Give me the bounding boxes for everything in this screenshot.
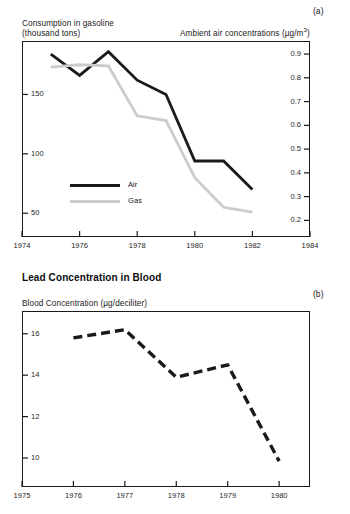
x-tick-label: 1975 <box>6 491 38 500</box>
y-tick-label: 16 <box>31 329 39 338</box>
lead-figure: (a) Consumption in gasoline (thousand to… <box>0 0 350 514</box>
y-tick-label: 10 <box>31 453 39 462</box>
y-tick-label: 12 <box>31 412 39 421</box>
panel-b-letter: (b) <box>313 289 324 299</box>
y2-tick-label: 0.8 <box>282 73 301 82</box>
panel-a-bottom-ticks <box>22 231 310 237</box>
y2-tick-label: 0.4 <box>282 168 301 177</box>
legend-swatch-gas <box>70 200 120 203</box>
panel-a-left-axis-title-line2: (thousand tons) <box>22 29 80 39</box>
x-tick-label: 1976 <box>64 241 96 250</box>
y2-tick-label: 0.2 <box>282 215 301 224</box>
series-line-air <box>51 52 253 190</box>
panel-b-title: Lead Concentration in Blood <box>22 272 161 283</box>
panel-a-series-lines <box>51 52 253 212</box>
panel-b-bottom-ticks <box>22 481 279 487</box>
x-tick-label: 1978 <box>121 241 153 250</box>
y-tick-label: 14 <box>31 370 39 379</box>
panel-a-plot-area <box>22 41 310 237</box>
panel-b-left-ticks <box>22 334 28 458</box>
panel-a-left-axis-title-line1: Consumption in gasoline <box>22 19 114 29</box>
y2-tick-label: 0.5 <box>282 144 301 153</box>
y-tick-label: 100 <box>31 149 44 158</box>
y-tick-label: 50 <box>31 208 39 217</box>
x-tick-label: 1974 <box>6 241 38 250</box>
y2-tick-label: 0.9 <box>282 49 301 58</box>
legend-label-gas: Gas <box>128 196 142 205</box>
panel-a-right-axis-title-suffix: ) <box>307 29 310 38</box>
x-tick-label: 1976 <box>57 491 89 500</box>
x-tick-label: 1980 <box>263 491 295 500</box>
x-tick-label: 1980 <box>179 241 211 250</box>
y-tick-label: 150 <box>31 89 44 98</box>
x-tick-label: 1979 <box>212 491 244 500</box>
legend-swatch-air <box>70 184 120 187</box>
panel-a-left-ticks <box>22 94 28 213</box>
series-line-blood-lead-concentration <box>73 330 279 461</box>
panel-a-letter: (a) <box>313 6 324 16</box>
y2-tick-label: 0.3 <box>282 192 301 201</box>
y2-tick-label: 0.6 <box>282 120 301 129</box>
panel-b-plot-area <box>22 311 310 487</box>
panel-a-right-axis-title: Ambient air concentrations (µg/m3) <box>180 29 310 39</box>
panel-b-series-lines <box>73 330 279 461</box>
panel-a-right-axis-title-prefix: Ambient air concentrations (µg/m <box>180 29 304 38</box>
x-tick-label: 1978 <box>160 491 192 500</box>
y2-tick-label: 0.7 <box>282 97 301 106</box>
panel-a-right-ticks <box>304 54 310 220</box>
x-tick-label: 1984 <box>294 241 326 250</box>
panel-b-axis-title: Blood Concentration (µg/deciliter) <box>22 299 147 309</box>
x-tick-label: 1977 <box>109 491 141 500</box>
legend-label-air: Air <box>128 180 137 189</box>
x-tick-label: 1982 <box>236 241 268 250</box>
